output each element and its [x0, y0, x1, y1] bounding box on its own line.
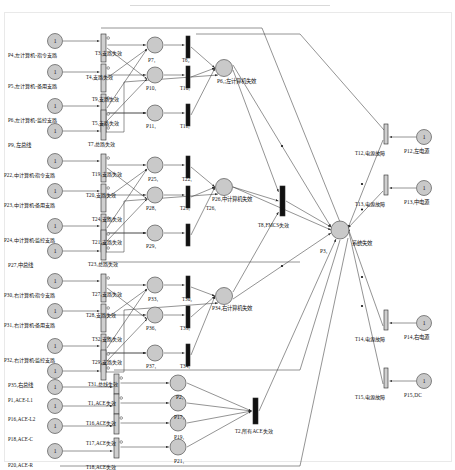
transition-t14[interactable]	[384, 310, 388, 330]
place-p9[interactable]: 1	[48, 124, 63, 139]
token-marker: 1	[54, 403, 57, 409]
arc	[124, 303, 218, 310]
arc	[191, 187, 215, 235]
node-label: P5₁左计算机-备用支路	[8, 83, 57, 89]
transition-t7[interactable]	[101, 124, 106, 140]
place-p32[interactable]: 1	[48, 339, 63, 354]
node-label: 系统失效	[352, 240, 372, 246]
inhibitor-marker	[107, 67, 110, 70]
node-label: P17₁	[174, 414, 184, 420]
place-p28[interactable]	[147, 187, 163, 203]
place-p20[interactable]: 1	[48, 444, 63, 459]
place-p24[interactable]: 1	[48, 219, 63, 234]
place-p35[interactable]: 1	[48, 364, 63, 379]
token-marker: 1	[423, 378, 426, 384]
node-label: P20₁ACE-R	[8, 462, 33, 468]
place-p22[interactable]: 1	[48, 154, 63, 169]
arc-marker	[281, 207, 283, 209]
place-p25[interactable]	[147, 157, 163, 173]
node-label: T29₁支路失效	[92, 359, 122, 365]
node-label: P13₁中电源	[404, 199, 429, 205]
transition-t12[interactable]	[384, 124, 388, 144]
transition-t15[interactable]	[384, 368, 388, 388]
transition-t28[interactable]	[101, 304, 106, 332]
node-label: T23₁总路失效	[88, 261, 118, 267]
node-label: T3₁支路失效	[95, 50, 122, 56]
node-label: T8₁FMCS失效	[258, 222, 289, 228]
transition-t8[interactable]	[280, 186, 285, 216]
place-p10[interactable]	[147, 67, 163, 83]
node-label: T26₁	[206, 205, 216, 211]
node-label: P10₁	[146, 85, 156, 91]
place-p36[interactable]	[147, 307, 163, 323]
transition-t23[interactable]	[101, 244, 106, 260]
node-label: P1₁ACE-L1	[8, 397, 33, 403]
node-label: T25₁	[180, 205, 190, 211]
node-label: P26₁中计算机失效	[212, 196, 252, 202]
transition-t6[interactable]	[186, 36, 190, 58]
place-p15[interactable]: 1	[417, 374, 432, 389]
node-label: T30₂	[182, 296, 192, 302]
transition-t30[interactable]	[186, 276, 190, 298]
place-p2[interactable]	[170, 375, 186, 391]
arc	[259, 239, 336, 411]
inhibitor-marker	[107, 187, 110, 190]
place-p5[interactable]: 1	[48, 65, 63, 80]
place-p6[interactable]: 1	[48, 99, 63, 114]
inhibitor-marker	[107, 233, 110, 236]
place-p7[interactable]	[147, 37, 163, 53]
transition-t27[interactable]	[101, 274, 106, 302]
place-p34[interactable]	[216, 288, 233, 305]
place-p18[interactable]: 1	[48, 419, 63, 434]
token-marker: 1	[54, 248, 57, 254]
place-p8[interactable]	[216, 60, 233, 77]
node-label: P37₁	[146, 363, 156, 369]
transition-t20[interactable]	[101, 184, 106, 212]
transition-t22[interactable]	[186, 156, 190, 178]
place-p29[interactable]	[147, 225, 163, 241]
transition-t26[interactable]	[186, 224, 190, 246]
inhibitor-marker	[107, 157, 110, 160]
token-marker: 1	[54, 448, 57, 454]
place-p27[interactable]: 1	[48, 244, 63, 259]
transition-t19[interactable]	[101, 154, 106, 182]
arc	[233, 70, 279, 192]
transition-t31[interactable]	[101, 364, 106, 380]
token-marker: 1	[54, 343, 57, 349]
place-p14[interactable]: 1	[417, 316, 432, 331]
node-label: T10₁	[180, 85, 190, 91]
place-p12[interactable]: 1	[417, 130, 432, 145]
inhibitor-marker	[107, 307, 110, 310]
node-label: T27₁支路失效	[92, 291, 122, 297]
place-p33[interactable]	[147, 277, 163, 293]
place-p30[interactable]: 1	[48, 274, 63, 289]
transition-t2[interactable]	[253, 398, 258, 424]
place-p21[interactable]	[170, 439, 186, 455]
node-label: T20₁支路失效	[86, 192, 116, 198]
arc	[191, 287, 215, 296]
node-label: T5₁支路失效	[92, 120, 119, 126]
node-label: P28₁	[146, 205, 156, 211]
node-label: P16₁ACE-L2	[8, 416, 35, 422]
place-p26[interactable]	[216, 179, 233, 196]
transition-t3[interactable]	[101, 34, 106, 62]
place-p13[interactable]: 1	[417, 181, 432, 196]
place-p4[interactable]: 1	[48, 34, 63, 49]
arc-marker	[361, 276, 363, 278]
place-p11[interactable]	[147, 105, 163, 121]
place-p1[interactable]: 1	[48, 380, 63, 395]
node-label: P11₁	[146, 123, 156, 129]
node-label: T16₁ACE失效	[86, 420, 116, 426]
node-label: P27₁中总线	[8, 262, 33, 268]
transition-t13[interactable]	[384, 175, 388, 195]
token-marker: 1	[54, 188, 57, 194]
token-marker: 1	[54, 69, 57, 75]
place-p16[interactable]: 1	[48, 399, 63, 414]
node-label: T17₁ACE失效	[86, 440, 116, 446]
place-p37[interactable]	[147, 345, 163, 361]
place-p31[interactable]: 1	[48, 304, 63, 319]
place-p23[interactable]: 1	[48, 184, 63, 199]
inhibitor-marker	[120, 441, 123, 444]
inhibitor-marker	[107, 277, 110, 280]
place-p3[interactable]	[331, 221, 349, 239]
